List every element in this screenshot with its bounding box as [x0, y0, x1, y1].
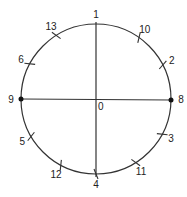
point-label: 5	[20, 136, 26, 147]
point-label: 11	[136, 166, 147, 177]
point-label: 8	[178, 94, 184, 105]
point-9-dot	[19, 97, 24, 102]
point-label: 13	[45, 21, 57, 32]
point-8-dot	[169, 98, 174, 103]
point-label: 6	[18, 54, 24, 65]
point-label: 9	[8, 94, 14, 105]
center-label: 0	[98, 101, 104, 112]
point-label: 12	[51, 169, 63, 180]
tick-mark	[159, 61, 166, 69]
point-label: 3	[168, 133, 174, 144]
tick-mark	[24, 63, 35, 64]
tick-mark	[157, 134, 168, 135]
point-label: 4	[93, 179, 99, 190]
point-label: 2	[169, 55, 175, 66]
circle-diagram: 1102831141259613 0	[0, 0, 187, 197]
point-label: 1	[93, 9, 99, 20]
point-label: 10	[139, 24, 151, 35]
